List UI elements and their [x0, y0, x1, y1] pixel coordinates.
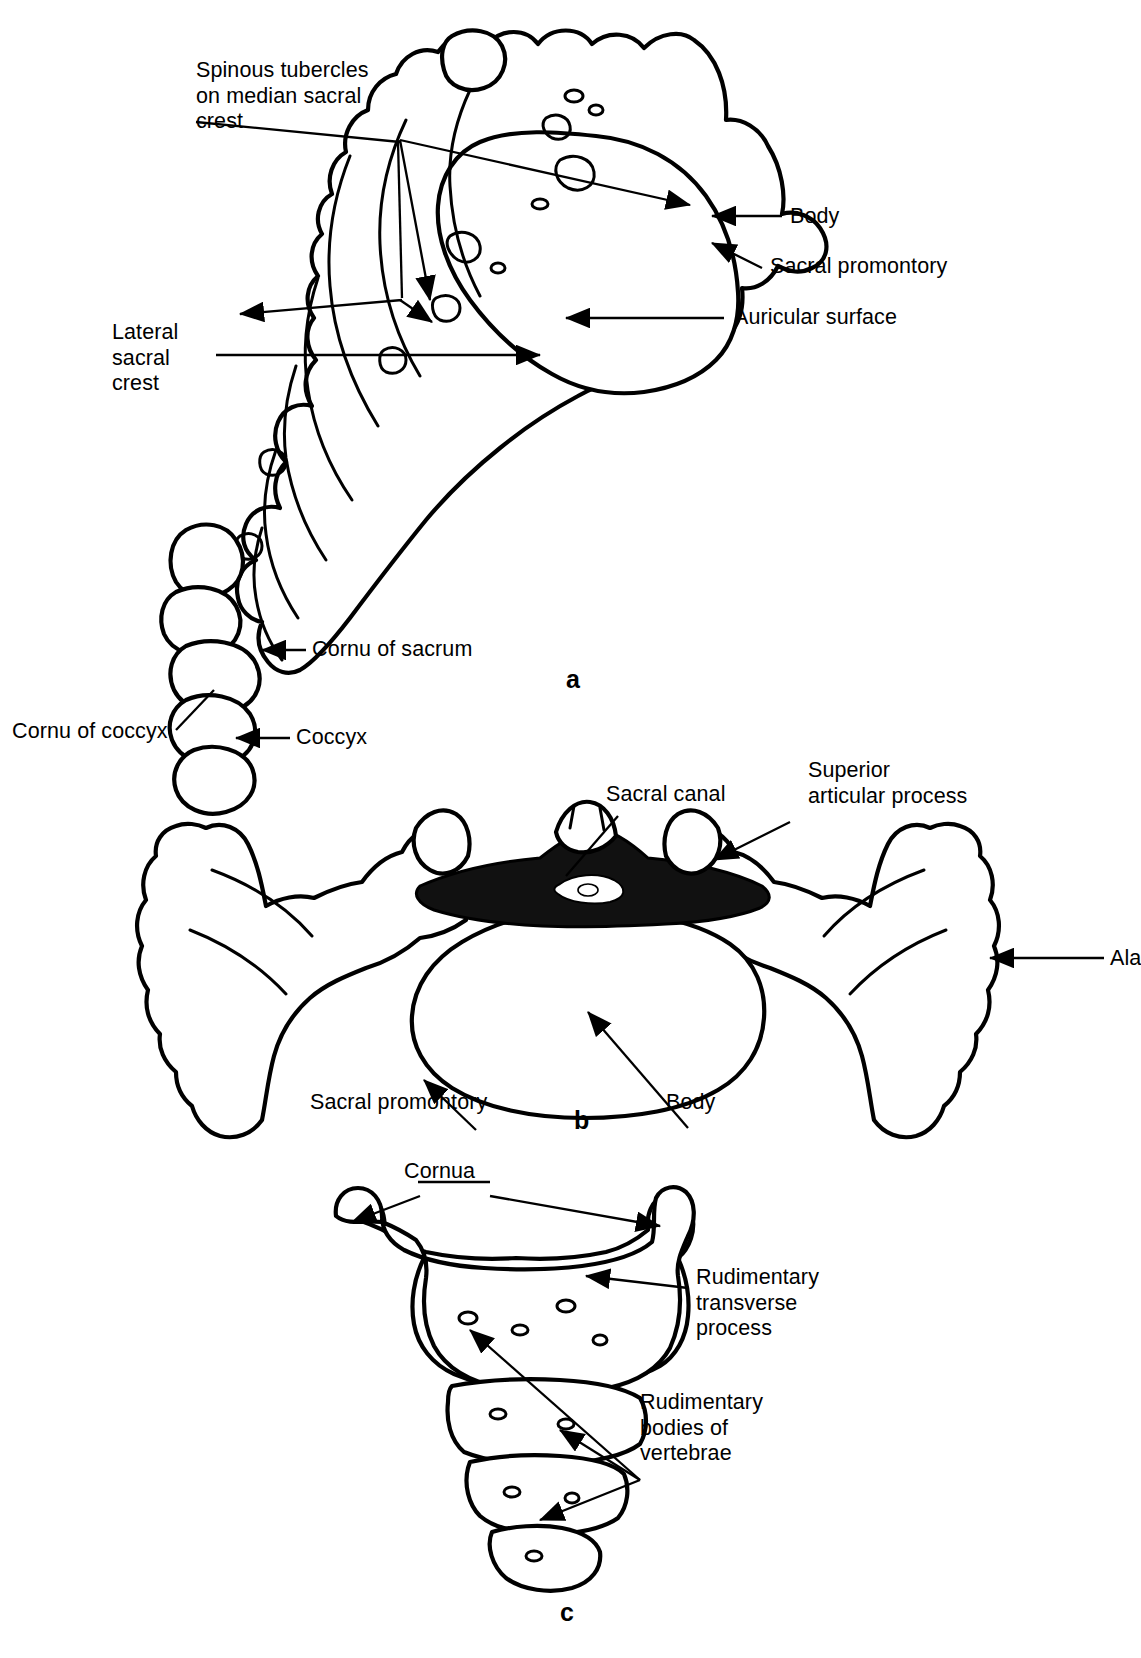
panel-letter-b: b	[574, 1106, 589, 1135]
label-rudimentary-bodies-of-vertebrae: Rudimentary bodies of vertebrae	[640, 1390, 763, 1467]
panel-c-artwork	[336, 1182, 694, 1591]
label-body-a: Body	[790, 204, 839, 230]
label-spinous-tubercles: Spinous tubercles on median sacral crest	[196, 58, 369, 135]
label-sacral-canal: Sacral canal	[606, 782, 726, 808]
label-sacral-promontory-a: Sacral promontory	[770, 254, 947, 280]
label-sacral-promontory-b: Sacral promontory	[310, 1090, 487, 1116]
panel-letter-c: c	[560, 1598, 574, 1627]
label-cornua: Cornua	[404, 1159, 475, 1185]
label-body-b: Body	[666, 1090, 715, 1116]
label-cornu-of-sacrum: Cornu of sacrum	[312, 637, 472, 663]
panel-letter-a: a	[566, 665, 580, 694]
label-ala: Ala	[1110, 946, 1141, 972]
label-lateral-sacral-crest: Lateral sacral crest	[112, 320, 178, 397]
label-cornu-of-coccyx: Cornu of coccyx	[12, 719, 168, 745]
label-superior-articular-process: Superior articular process	[808, 758, 967, 809]
label-rudimentary-transverse-process: Rudimentary transverse process	[696, 1265, 819, 1342]
panel-b-artwork	[137, 802, 1104, 1137]
label-auricular-surface: Auricular surface	[734, 305, 897, 331]
label-coccyx: Coccyx	[296, 725, 367, 751]
panel-a-artwork	[161, 31, 826, 814]
